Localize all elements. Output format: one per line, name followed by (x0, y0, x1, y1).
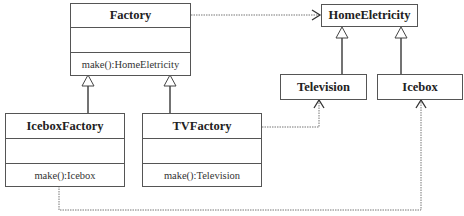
class-television: Television (280, 74, 367, 100)
dependency-line-tvfactory (262, 100, 319, 127)
open-arrowhead-icon (416, 100, 426, 108)
class-homeeletricity: HomeEletricity (321, 4, 418, 27)
class-icebox: Icebox (377, 74, 463, 100)
operation: make():Icebox (6, 163, 124, 188)
operation: make():HomeEletricity (71, 52, 190, 77)
attributes-section (71, 27, 190, 52)
inheritance-triangle-icon (395, 27, 407, 38)
class-iceboxfactory: IceboxFactory make():Icebox (5, 113, 125, 187)
class-tvfactory: TVFactory make():Television (142, 113, 262, 187)
operation: make():Television (143, 163, 261, 188)
class-name: TVFactory (143, 114, 261, 138)
class-factory: Factory make():HomeEletricity (70, 3, 191, 76)
inheritance-triangle-icon (336, 27, 348, 38)
class-name: Factory (71, 4, 190, 27)
class-name: IceboxFactory (6, 114, 124, 138)
attributes-section (143, 138, 261, 163)
attributes-section (6, 138, 124, 163)
